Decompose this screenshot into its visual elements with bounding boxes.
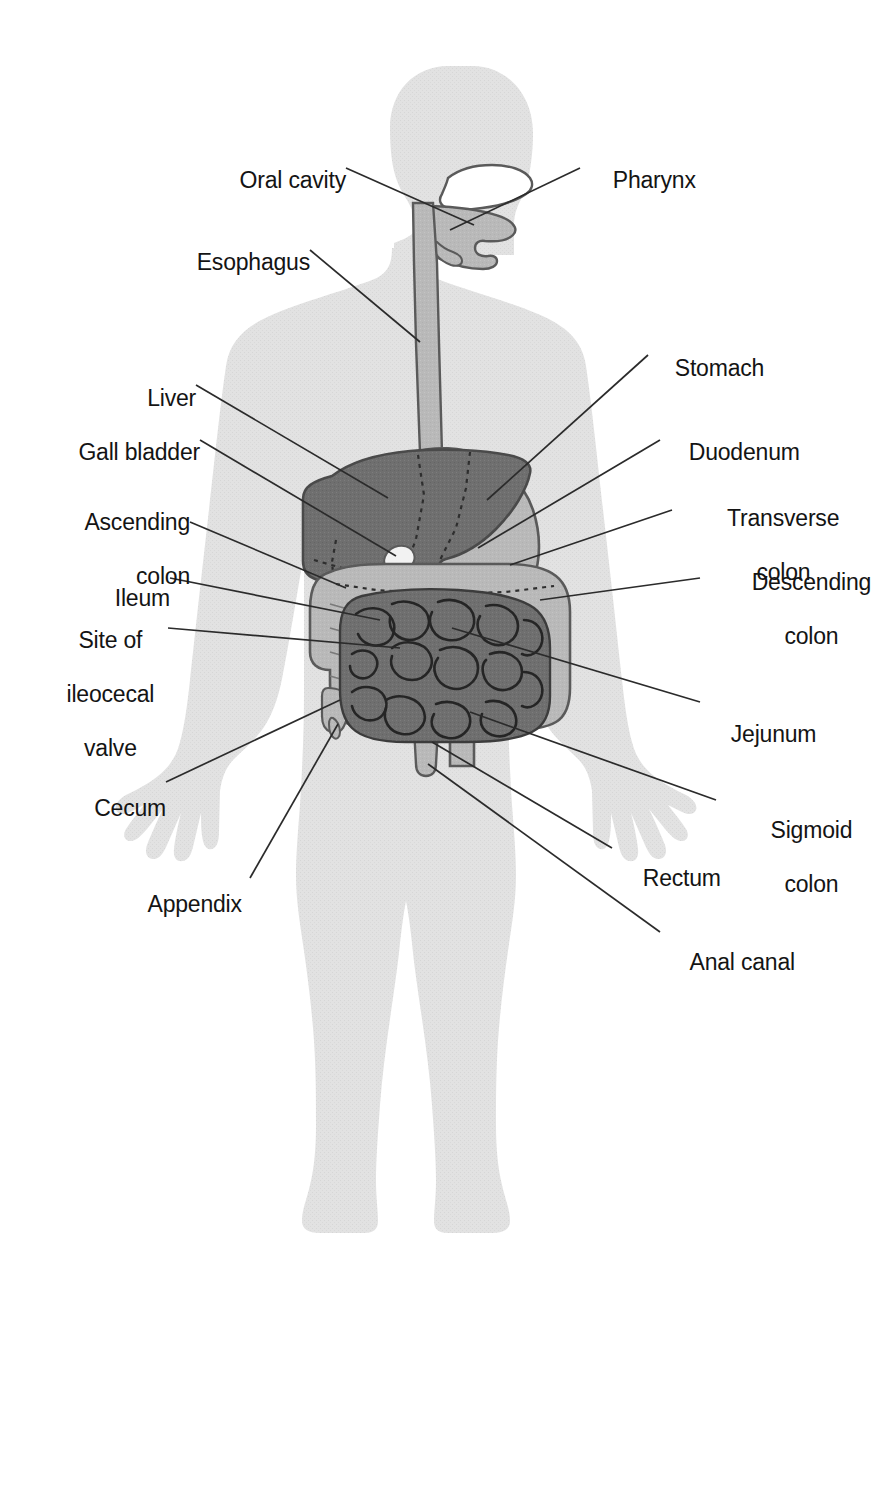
label-ileocecal-valve-line2: ileocecal [67, 681, 155, 707]
label-transverse-colon-line1: Transverse [727, 505, 839, 531]
label-esophagus-text: Esophagus [197, 249, 310, 275]
label-gall-bladder-text: Gall bladder [78, 439, 200, 465]
label-sigmoid-colon-line2: colon [784, 871, 838, 897]
label-pharynx-text: Pharynx [613, 167, 696, 193]
label-jejunum[interactable]: Jejunum [706, 694, 886, 775]
label-rectum-text: Rectum [643, 865, 721, 891]
label-descending-colon[interactable]: Descending colon [706, 542, 892, 677]
label-ileocecal-valve-line1: Site of [78, 627, 142, 653]
label-cecum[interactable]: Cecum [20, 768, 166, 849]
label-liver-text: Liver [147, 385, 196, 411]
label-anal-canal-text: Anal canal [690, 949, 795, 975]
label-cecum-text: Cecum [94, 795, 166, 821]
label-descending-colon-line2: colon [784, 623, 838, 649]
label-ileocecal-valve[interactable]: Site of ileocecal valve [28, 600, 168, 789]
label-pharynx[interactable]: Pharynx [588, 140, 788, 221]
diagram-canvas: Oral cavity Esophagus Liver Gall bladder… [0, 0, 896, 1488]
label-descending-colon-line1: Descending [752, 569, 871, 595]
label-ascending-colon-line1: Ascending [84, 509, 190, 535]
label-duodenum-text: Duodenum [689, 439, 800, 465]
label-stomach-text: Stomach [675, 355, 764, 381]
label-jejunum-text: Jejunum [731, 721, 817, 747]
label-oral-cavity-text: Oral cavity [240, 167, 346, 193]
label-sigmoid-colon-line1: Sigmoid [771, 817, 853, 843]
small-intestine [340, 589, 550, 742]
label-appendix[interactable]: Appendix [124, 864, 304, 945]
label-rectum[interactable]: Rectum [618, 838, 778, 919]
label-oral-cavity[interactable]: Oral cavity [120, 140, 346, 221]
label-ileocecal-valve-line3: valve [84, 735, 137, 761]
label-gall-bladder[interactable]: Gall bladder [30, 412, 200, 493]
label-stomach[interactable]: Stomach [650, 328, 850, 409]
label-anal-canal[interactable]: Anal canal [666, 922, 866, 1003]
label-esophagus[interactable]: Esophagus [80, 222, 310, 303]
label-appendix-text: Appendix [148, 891, 242, 917]
